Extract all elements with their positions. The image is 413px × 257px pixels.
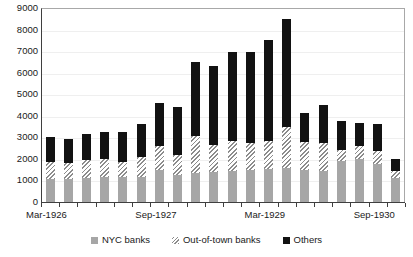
nyc-swatch-icon	[91, 237, 98, 244]
bar-segment-nyc-banks	[173, 175, 182, 202]
bar-segment-out-of-town-banks	[337, 150, 346, 161]
x-axis-tick	[259, 203, 260, 207]
bar-segment-out-of-town-banks	[155, 146, 164, 170]
bar-segment-others	[100, 132, 109, 159]
bar-mar-1929	[264, 40, 273, 202]
bar-segment-others	[173, 107, 182, 154]
legend-item-nyc-banks[interactable]: NYC banks	[91, 235, 150, 245]
bar-segment-out-of-town-banks	[355, 146, 364, 159]
bar-dec-1929	[319, 105, 328, 202]
bar-sep-1928	[228, 52, 237, 202]
bar-segment-out-of-town-banks	[391, 171, 400, 179]
bar-segment-others	[191, 62, 200, 136]
bar-segment-out-of-town-banks	[319, 143, 328, 171]
x-axis-tick	[350, 203, 351, 207]
bar-segment-others	[373, 124, 382, 151]
bar-jun-1926	[64, 139, 73, 202]
x-axis-tick	[132, 203, 133, 207]
bar-segment-out-of-town-banks	[300, 142, 309, 170]
bar-segment-out-of-town-banks	[137, 157, 146, 177]
x-axis-tick	[369, 203, 370, 207]
y-axis-tick-label: 3000	[2, 132, 38, 142]
bar-segment-out-of-town-banks	[118, 162, 127, 177]
bar-segment-out-of-town-banks	[209, 145, 218, 172]
bar-segment-others	[264, 40, 273, 140]
bar-segment-nyc-banks	[118, 177, 127, 202]
bar-segment-out-of-town-banks	[228, 141, 237, 171]
x-axis-tick	[296, 203, 297, 207]
bar-segment-out-of-town-banks	[46, 162, 55, 179]
x-axis-tick	[332, 203, 333, 207]
bar-segment-out-of-town-banks	[282, 127, 291, 168]
bar-segment-nyc-banks	[319, 171, 328, 202]
x-axis-labels: Mar-1926Sep-1927Mar-1929Sep-1930	[0, 209, 413, 225]
x-axis-tick	[187, 203, 188, 207]
bar-segment-out-of-town-banks	[264, 141, 273, 169]
bar-segment-out-of-town-banks	[100, 159, 109, 177]
bar-jun-1927	[137, 124, 146, 202]
y-axis: 9000800070006000500040003000200010000	[0, 0, 38, 210]
bar-segment-out-of-town-banks	[64, 163, 73, 179]
bar-sep-1930	[373, 124, 382, 202]
y-axis-tick-label: 2000	[2, 154, 38, 164]
bar-dec-1930	[391, 159, 400, 202]
x-axis-tick	[114, 203, 115, 207]
bar-segment-out-of-town-banks	[246, 143, 255, 170]
x-axis-tick-label: Sep-1930	[354, 209, 395, 220]
y-axis-tick-label: 8000	[2, 25, 38, 35]
x-axis-tick	[241, 203, 242, 207]
bar-segment-others	[46, 137, 55, 162]
x-axis-tick	[314, 203, 315, 207]
x-axis-tick	[405, 203, 406, 207]
y-axis-tick-label: 0	[2, 197, 38, 207]
bar-segment-nyc-banks	[355, 159, 364, 202]
bar-segment-others	[137, 124, 146, 156]
bar-segment-nyc-banks	[191, 173, 200, 202]
bar-segment-nyc-banks	[100, 177, 109, 202]
x-axis-tick	[41, 203, 42, 207]
bar-segment-nyc-banks	[137, 177, 146, 202]
x-axis-tick-label: Mar-1929	[245, 209, 286, 220]
bar-segment-out-of-town-banks	[191, 136, 200, 173]
legend-label: Others	[294, 235, 323, 245]
bar-segment-nyc-banks	[64, 179, 73, 202]
x-axis-tick	[387, 203, 388, 207]
bar-segment-others	[391, 159, 400, 171]
bar-segment-nyc-banks	[300, 170, 309, 202]
bar-segment-others	[209, 66, 218, 145]
bar-segment-out-of-town-banks	[173, 155, 182, 175]
bar-segment-others	[337, 121, 346, 150]
x-axis-tick	[59, 203, 60, 207]
y-axis-tick-label: 1000	[2, 175, 38, 185]
bar-dec-1928	[246, 52, 255, 202]
x-axis-tick-label: Sep-1927	[135, 209, 176, 220]
bar-segment-others	[282, 19, 291, 127]
bar-mar-1926	[46, 137, 55, 202]
x-axis-tick	[168, 203, 169, 207]
legend-label: Out-of-town banks	[183, 235, 261, 245]
bar-segment-others	[355, 123, 364, 146]
legend-label: NYC banks	[102, 235, 150, 245]
bar-jun-1929	[282, 19, 291, 202]
bar-series-container	[41, 8, 405, 202]
bar-segment-nyc-banks	[155, 170, 164, 202]
x-axis-tick	[150, 203, 151, 207]
bar-segment-out-of-town-banks	[373, 151, 382, 164]
legend-item-out-of-town-banks[interactable]: Out-of-town banks	[172, 235, 261, 245]
bar-segment-nyc-banks	[282, 168, 291, 202]
bar-segment-others	[118, 132, 127, 162]
bar-segment-nyc-banks	[46, 179, 55, 202]
bar-jun-1928	[209, 66, 218, 202]
x-axis-tick	[96, 203, 97, 207]
others-swatch-icon	[283, 237, 290, 244]
y-axis-tick-label: 4000	[2, 111, 38, 121]
legend-item-others[interactable]: Others	[283, 235, 323, 245]
bar-segment-others	[246, 52, 255, 143]
y-axis-tick-label: 7000	[2, 46, 38, 56]
x-axis-tick-label: Mar-1926	[26, 209, 67, 220]
bar-segment-nyc-banks	[209, 172, 218, 202]
y-axis-tick-label: 9000	[2, 3, 38, 13]
bar-jun-1930	[355, 123, 364, 202]
bar-sep-1926	[82, 134, 91, 202]
bar-segment-out-of-town-banks	[82, 160, 91, 178]
